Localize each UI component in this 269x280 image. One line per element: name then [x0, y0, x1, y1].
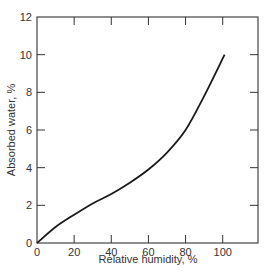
y-tick-label: 10 — [20, 49, 32, 61]
y-tick-label: 2 — [26, 199, 32, 211]
x-tick-label: 100 — [214, 246, 232, 258]
plot-frame — [37, 17, 258, 243]
axis-ticks — [37, 17, 258, 243]
chart: 020406080100 024681012 Relative humidity… — [0, 0, 269, 280]
x-axis-label: Relative humidity, % — [99, 253, 198, 265]
plot-border — [37, 17, 258, 243]
y-tick-labels: 024681012 — [20, 11, 32, 249]
x-tick-label: 0 — [34, 246, 40, 258]
y-tick-label: 8 — [26, 86, 32, 98]
x-tick-label: 20 — [68, 246, 80, 258]
y-tick-label: 4 — [26, 162, 32, 174]
data-curve — [37, 55, 225, 243]
y-tick-label: 12 — [20, 11, 32, 23]
y-tick-label: 0 — [26, 237, 32, 249]
y-axis-label: Absorbed water, % — [5, 84, 17, 177]
y-tick-label: 6 — [26, 124, 32, 136]
